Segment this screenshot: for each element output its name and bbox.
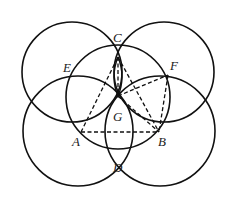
- geometry-diagram: CEFGABD: [0, 0, 237, 204]
- label-point-c: C: [113, 30, 122, 45]
- point-labels-group: CEFGABD: [62, 30, 179, 175]
- segment-cb: [118, 57, 159, 132]
- segment-gb: [118, 96, 159, 132]
- label-point-e: E: [62, 60, 71, 75]
- point-g-dot: [116, 94, 119, 97]
- label-point-a: A: [71, 134, 80, 149]
- label-point-d: D: [112, 160, 123, 175]
- label-point-b: B: [158, 134, 166, 149]
- label-point-f: F: [169, 58, 179, 73]
- label-point-g: G: [113, 109, 123, 124]
